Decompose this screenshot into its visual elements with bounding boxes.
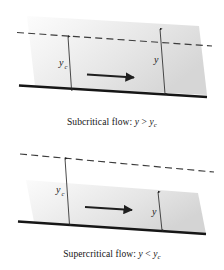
flow-depth-label-supercritical: y bbox=[151, 206, 157, 217]
caption-supercritical-prefix: Supercritical flow: bbox=[63, 249, 138, 259]
caption-supercritical-subscript: c bbox=[158, 253, 161, 261]
panel-subcritical: y c y Subcritical flow: y > yc bbox=[0, 0, 224, 135]
subcritical-diagram: y c y bbox=[0, 0, 224, 115]
water-body-supercritical bbox=[26, 180, 206, 234]
figure-root: y c y Subcritical flow: y > yc bbox=[0, 0, 224, 270]
caption-supercritical-relation: < bbox=[143, 249, 153, 259]
caption-supercritical: Supercritical flow: y < yc bbox=[0, 248, 224, 263]
panel-supercritical: y c y Supercritical flow: y < yc bbox=[0, 135, 224, 270]
caption-subcritical-relation: > bbox=[139, 117, 149, 127]
critical-depth-label-subcritical: y bbox=[58, 57, 64, 68]
caption-subcritical-subscript: c bbox=[154, 121, 157, 129]
flow-depth-label-subcritical: y bbox=[153, 54, 159, 65]
critical-depth-label-supercritical: y bbox=[55, 184, 61, 195]
critical-depth-sublabel-subcritical: c bbox=[64, 63, 67, 70]
critical-depth-sublabel-supercritical: c bbox=[61, 190, 64, 197]
caption-subcritical-prefix: Subcritical flow: bbox=[67, 117, 135, 127]
caption-subcritical: Subcritical flow: y > yc bbox=[0, 116, 224, 131]
water-body-subcritical bbox=[27, 16, 207, 95]
critical-depth-line-supercritical bbox=[20, 154, 214, 172]
supercritical-diagram: y c y bbox=[0, 135, 224, 250]
